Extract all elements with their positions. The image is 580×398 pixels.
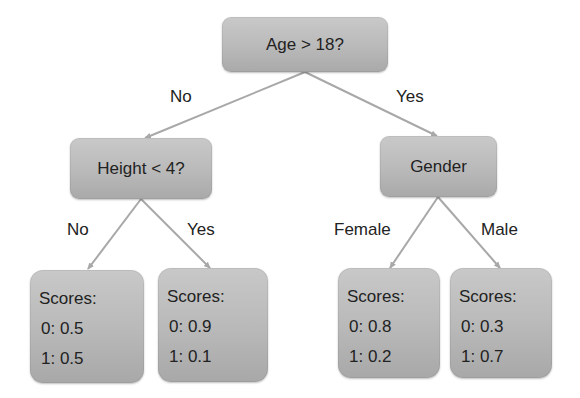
leaf-title: Scores: (167, 282, 268, 312)
leaf-node-2: Scores: 0: 0.9 1: 0.1 (158, 268, 268, 382)
leaf-score-1: 1: 0.2 (347, 342, 440, 372)
decision-tree-diagram: Age > 18? No Yes Height < 4? Gender No Y… (0, 0, 580, 398)
leaf-title: Scores: (39, 284, 144, 314)
leaf-node-3: Scores: 0: 0.8 1: 0.2 (338, 268, 440, 378)
leaf-node-4: Scores: 0: 0.3 1: 0.7 (450, 268, 552, 378)
leaf-score-1: 1: 0.1 (167, 342, 268, 372)
gender-node-label: Gender (410, 157, 467, 177)
leaf-node-1: Scores: 0: 0.5 1: 0.5 (30, 270, 144, 383)
height-node: Height < 4? (70, 138, 212, 199)
leaf-score-0: 0: 0.8 (347, 312, 440, 342)
gender-node: Gender (380, 136, 497, 197)
leaf-title: Scores: (459, 282, 552, 312)
edge-gender-female (390, 197, 438, 268)
leaf-score-1: 1: 0.7 (459, 342, 552, 372)
leaf-title: Scores: (347, 282, 440, 312)
leaf-score-1: 1: 0.5 (39, 344, 144, 374)
height-node-label: Height < 4? (97, 159, 184, 179)
edge-label-gender-male: Male (481, 220, 518, 240)
leaf-score-0: 0: 0.9 (167, 312, 268, 342)
edge-label-height-yes: Yes (187, 220, 215, 240)
edge-label-root-no: No (170, 87, 192, 107)
edge-root-no (145, 72, 305, 138)
root-node: Age > 18? (222, 17, 388, 72)
root-node-label: Age > 18? (266, 35, 344, 55)
edge-label-height-no: No (67, 220, 89, 240)
edge-label-root-yes: Yes (396, 87, 424, 107)
edge-label-gender-female: Female (334, 220, 391, 240)
leaf-score-0: 0: 0.3 (459, 312, 552, 342)
leaf-score-0: 0: 0.5 (39, 314, 144, 344)
edge-height-no (88, 199, 141, 269)
